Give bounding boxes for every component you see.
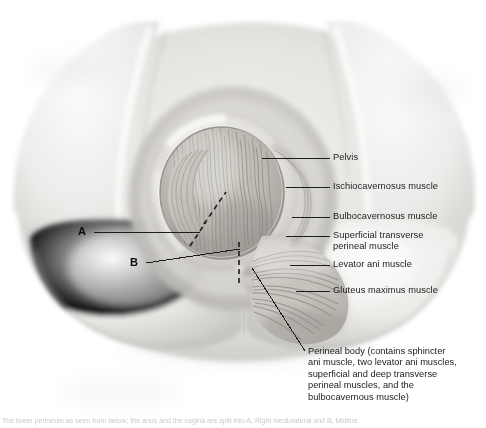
callout-gluteus-maximus-muscle: Gluteus maximus muscle bbox=[333, 285, 438, 296]
callout-line-2: perineal muscle bbox=[333, 241, 399, 251]
caption-line-5: bulbocavernous muscle) bbox=[308, 392, 486, 403]
caption-line-1: Perineal body (contains sphincter bbox=[308, 346, 486, 357]
caption-line-3: superficial and deep transverse bbox=[308, 369, 486, 380]
source-note: The lower perineum as seen from below; t… bbox=[2, 417, 486, 425]
marker-b: B bbox=[130, 256, 138, 268]
callout-bulbocavernosus-muscle: Bulbocavernosus muscle bbox=[333, 211, 437, 222]
callout-pelvis: Pelvis bbox=[333, 152, 358, 163]
callout-superficial-transverse-perineal-muscle: Superficial transverse perineal muscle bbox=[333, 230, 424, 252]
caption-line-4: perineal muscles, and the bbox=[308, 380, 486, 391]
anatomy-figure: Pelvis Ischiocavernosus muscle Bulbocave… bbox=[0, 0, 486, 428]
callout-line-1: Superficial transverse bbox=[333, 230, 424, 240]
callout-ischiocavernosus-muscle: Ischiocavernosus muscle bbox=[333, 181, 438, 192]
callout-levator-ani-muscle: Levator ani muscle bbox=[333, 259, 412, 270]
marker-a: A bbox=[78, 225, 86, 237]
perineal-body-caption: Perineal body (contains sphincter ani mu… bbox=[308, 346, 486, 403]
caption-line-2: ani muscle, two levator ani muscles, bbox=[308, 357, 486, 368]
